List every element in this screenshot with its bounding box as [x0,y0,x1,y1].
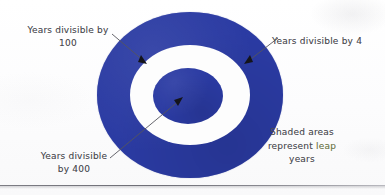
legend-note-line3: years [289,154,315,164]
page-edge-shadow [0,186,385,189]
scanned-diagram-page: Years divisible by 100 Years divisible b… [0,0,385,195]
legend-note-line1: Shaded areas [270,127,334,137]
label-years-divisible-by-100: Years divisible by 100 [14,24,122,49]
ring-years-divisible-by-400 [153,68,223,124]
ink-texture-inner [153,68,223,124]
label-years-divisible-by-400: Years divisible by 400 [24,150,124,175]
legend-note-shaded-areas: Shaded areasrepresent leapyears [252,126,352,167]
legend-note-line2-prefix: represent [268,141,316,151]
legend-note-highlight-leap: leap [316,141,336,151]
label-years-divisible-by-4: Years divisible by 4 [272,35,382,48]
